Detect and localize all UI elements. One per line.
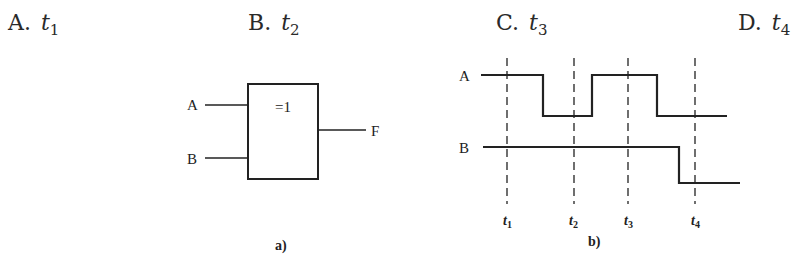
- input-b-label: B: [187, 151, 197, 167]
- input-a-label: A: [187, 97, 198, 113]
- waveform-b: [483, 147, 740, 183]
- caption-b: b): [588, 234, 601, 250]
- timing-diagram: A B t1 t2 t3 t4 b): [459, 58, 740, 250]
- caption-a: a): [275, 238, 287, 254]
- output-f-label: F: [371, 123, 379, 139]
- marker-label-t4: t4: [691, 213, 700, 230]
- signal-a-label: A: [459, 68, 470, 84]
- waveform-a: [481, 75, 727, 116]
- xor-gate-diagram: =1 A B F a): [187, 84, 379, 254]
- signal-b-label: B: [459, 140, 469, 156]
- marker-label-t3: t3: [624, 213, 633, 230]
- marker-label-t2: t2: [569, 213, 578, 230]
- figure: =1 A B F a) A B t1 t2 t3 t4 b): [0, 0, 803, 280]
- gate-symbol: =1: [275, 99, 291, 115]
- marker-label-t1: t1: [503, 213, 512, 230]
